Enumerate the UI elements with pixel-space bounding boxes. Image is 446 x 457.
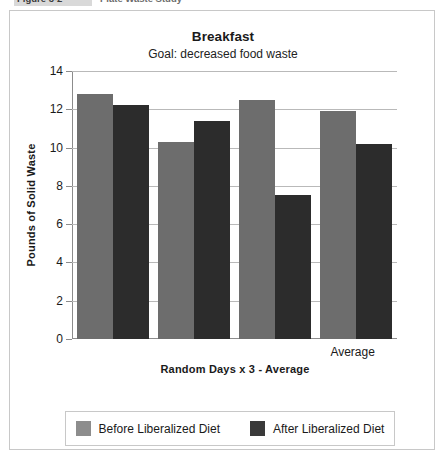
chart-subtitle: Goal: decreased food waste (10, 47, 436, 61)
y-axis-title: Pounds of Solid Waste (23, 71, 39, 339)
bar (275, 195, 311, 339)
legend-swatch-after-icon (250, 421, 265, 436)
bar (194, 121, 230, 339)
x-axis-title: Random Days x 3 - Average (72, 363, 398, 375)
y-axis-tick-label: 2 (56, 294, 63, 308)
bar-series-layer (72, 71, 397, 339)
bar (239, 100, 275, 339)
legend-label-before: Before Liberalized Diet (99, 422, 220, 436)
legend-item-before: Before Liberalized Diet (76, 421, 220, 436)
legend-swatch-before-icon (76, 421, 91, 436)
legend-item-after: After Liberalized Diet (250, 421, 384, 436)
x-axis-group-label: Average (330, 345, 374, 359)
chart-legend: Before Liberalized Diet After Liberalize… (65, 411, 395, 446)
y-axis-tick-label: 6 (56, 217, 63, 231)
legend-label-after: After Liberalized Diet (273, 422, 384, 436)
chart-title: Breakfast (10, 29, 436, 44)
y-axis-tick-label: 12 (50, 102, 63, 116)
bar (356, 144, 392, 339)
bar (77, 94, 113, 339)
y-axis-tick-label: 0 (56, 332, 63, 346)
chart-card: Breakfast Goal: decreased food waste Pou… (9, 10, 435, 450)
y-axis-tick-label: 14 (50, 64, 63, 78)
y-axis-title-label: Pounds of Solid Waste (25, 144, 37, 267)
bar (113, 105, 149, 339)
y-axis-tick-label: 8 (56, 179, 63, 193)
figure-caption-badge-label: Figure 3-2 (17, 0, 91, 6)
bar (320, 111, 356, 339)
bar (158, 142, 194, 339)
plot-area: 02468101214 (72, 71, 397, 339)
y-axis-tick-label: 10 (50, 141, 63, 155)
figure-caption-strip: Figure 3-2 Plate Waste Study (0, 0, 446, 9)
y-axis-tick-label: 4 (56, 255, 63, 269)
y-axis-tick (66, 339, 72, 340)
figure-caption-title: Plate Waste Study (100, 0, 182, 6)
